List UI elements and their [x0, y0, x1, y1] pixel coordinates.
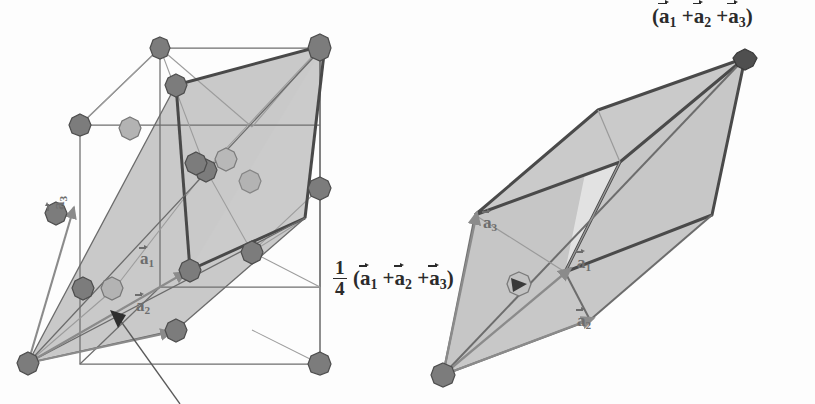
atom-origin-corner — [431, 363, 455, 387]
figure-canvas: a1 a2 a3 — [0, 0, 815, 404]
right-corner-sum-label: (a1 +a2 +a3) — [652, 6, 753, 30]
right-quarter-sum-label: 14 (a1 +a2 +a3) — [333, 258, 454, 298]
right-vector-label-a2: a2 — [577, 312, 591, 331]
right-vector-label-a1: a1 — [577, 254, 591, 273]
right-vector-label-a3: a3 — [483, 214, 497, 233]
right-figure-svg — [0, 0, 815, 404]
